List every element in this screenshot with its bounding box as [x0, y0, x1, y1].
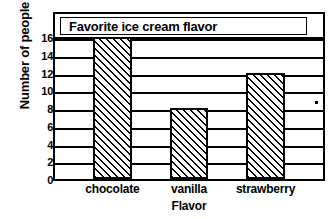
- y-axis-ticks: 1614121086420: [33, 36, 53, 181]
- y-tick-label: 10: [33, 86, 53, 97]
- y-tick-label: 0: [33, 175, 53, 186]
- title-strip: Favorite ice cream flavor: [55, 14, 323, 39]
- y-tick-label: 16: [33, 33, 53, 44]
- y-tick-label: 2: [33, 157, 53, 168]
- y-tick-label: 8: [33, 104, 53, 115]
- chart-title-box: Favorite ice cream flavor: [60, 17, 307, 35]
- bar-vanilla: [170, 108, 208, 179]
- bar-strawberry: [246, 73, 284, 180]
- y-tick-label: 4: [33, 139, 53, 150]
- bar-chart: Number of people 1614121086420 Favorite …: [0, 0, 333, 219]
- x-tick-label-vanilla: vanilla: [171, 183, 207, 195]
- plot-area: [55, 39, 323, 179]
- x-tick-label-strawberry: strawberry: [236, 183, 295, 195]
- x-tick-label-chocolate: chocolate: [85, 183, 139, 195]
- bar-chocolate: [93, 37, 131, 179]
- y-tick-label: 12: [33, 68, 53, 79]
- chart-title: Favorite ice cream flavor: [69, 19, 217, 34]
- chart-frame: Favorite ice cream flavor: [53, 12, 325, 181]
- y-axis-label: Number of people: [17, 0, 32, 126]
- x-axis-label: Flavor: [53, 199, 325, 213]
- x-axis-category-labels: chocolatevanillastrawberry: [53, 183, 325, 199]
- y-tick-label: 14: [33, 50, 53, 61]
- scan-dot-artifact: [315, 101, 318, 104]
- y-tick-label: 6: [33, 121, 53, 132]
